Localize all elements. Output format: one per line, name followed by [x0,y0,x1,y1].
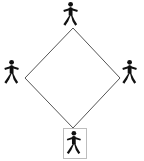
pedestrian-left-icon[interactable] [4,60,18,84]
pedestrian-right-icon[interactable] [122,60,136,84]
diagram-canvas: pedestrian-top pedestrian-left pedestria… [0,0,144,161]
diamond-path-shape [25,28,120,128]
diagram-svg [0,0,144,161]
pedestrian-top-icon[interactable] [63,2,77,26]
